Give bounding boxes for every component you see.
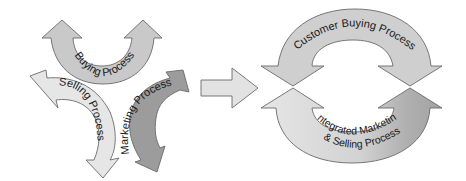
process-diagram: Buying Process Selling Process Marketing… [0,0,466,181]
transition-arrow [201,68,258,108]
